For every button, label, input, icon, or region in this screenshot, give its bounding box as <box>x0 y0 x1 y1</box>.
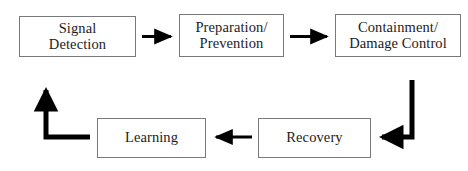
node-containment-damage-control-label: Containment/ Damage Control <box>345 20 451 51</box>
arrow-learning-to-signal <box>46 90 90 137</box>
node-signal-detection-label: Signal Detection <box>45 21 110 52</box>
node-preparation-prevention-label: Preparation/ Prevention <box>191 20 271 51</box>
node-recovery-label: Recovery <box>282 130 346 146</box>
node-preparation-prevention: Preparation/ Prevention <box>179 14 284 57</box>
node-signal-detection: Signal Detection <box>19 16 136 57</box>
arrow-containment-to-recovery <box>382 80 412 137</box>
node-learning: Learning <box>97 118 206 158</box>
node-containment-damage-control: Containment/ Damage Control <box>335 14 461 57</box>
crisis-management-cycle-diagram: Signal Detection Preparation/ Prevention… <box>0 0 468 171</box>
node-learning-label: Learning <box>121 130 182 146</box>
node-recovery: Recovery <box>258 118 371 158</box>
